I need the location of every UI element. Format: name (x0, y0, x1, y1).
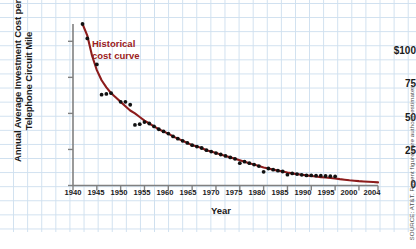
chart-figure: Annual Average Investment Cost per Telep… (0, 0, 416, 249)
plot-area (0, 0, 416, 249)
data-point (276, 169, 280, 173)
data-point (190, 143, 194, 147)
data-point (324, 174, 328, 178)
data-point (171, 135, 175, 139)
data-point (214, 151, 218, 155)
data-point (185, 141, 189, 145)
data-point (95, 62, 99, 66)
data-point (328, 174, 332, 178)
data-point (143, 120, 147, 124)
data-point (233, 157, 237, 161)
data-point (290, 171, 294, 175)
data-point (133, 123, 137, 127)
data-point (286, 173, 290, 177)
data-point (271, 168, 275, 172)
data-point (300, 173, 304, 177)
data-point (228, 155, 232, 159)
data-point (224, 154, 228, 158)
data-point (181, 139, 185, 143)
data-point (257, 164, 261, 168)
data-point (100, 93, 104, 97)
data-point (176, 137, 180, 141)
data-point (81, 22, 85, 26)
data-point (205, 148, 209, 152)
data-point (152, 124, 156, 128)
data-point (305, 174, 309, 178)
data-point (238, 161, 242, 165)
data-point (333, 175, 337, 179)
data-point (243, 160, 247, 164)
axis-lines (73, 24, 378, 186)
data-point (200, 146, 204, 150)
data-point (128, 103, 132, 107)
data-point (309, 174, 313, 178)
data-point (314, 174, 318, 178)
data-point (319, 174, 323, 178)
data-point (124, 100, 128, 104)
data-point (138, 122, 142, 126)
data-point (262, 170, 266, 174)
data-point (209, 150, 213, 154)
data-point (147, 122, 151, 126)
data-point (85, 37, 89, 41)
data-point (162, 130, 166, 134)
data-point (281, 170, 285, 174)
data-point (109, 91, 113, 95)
data-point (266, 167, 270, 171)
data-point (219, 153, 223, 157)
data-point (195, 145, 199, 149)
data-point (252, 163, 256, 167)
data-point (247, 161, 251, 165)
data-point (157, 127, 161, 131)
data-point (295, 172, 299, 176)
data-point (119, 100, 123, 104)
data-point (104, 92, 108, 96)
data-point (166, 132, 170, 136)
